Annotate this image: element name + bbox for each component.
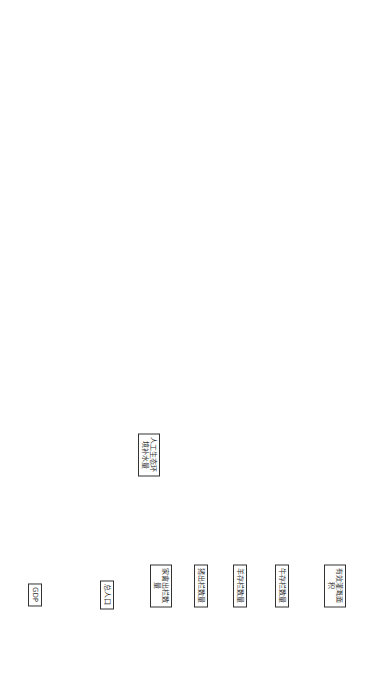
stock-s_sheep: 羊存栏数量 (233, 564, 247, 607)
stock-s_pop: 总人口 (100, 580, 114, 609)
stock-s_poultry: 家禽出栏数 量 (151, 564, 173, 607)
diagram-canvas: 有效灌溉面 积牛存栏数量羊存栏数量猪出栏数量家禽出栏数 量总人口人工生态环 境补… (0, 0, 392, 692)
stock-s_cattle: 牛存栏数量 (275, 564, 289, 607)
stock-s_pig: 猪出栏数量 (194, 564, 208, 607)
stock-s_eco: 人工生态环 境补水量 (138, 433, 160, 476)
stock-s_gdp: GDP (29, 583, 43, 606)
stock-s_irrig: 有效灌溉面 积 (324, 564, 346, 607)
